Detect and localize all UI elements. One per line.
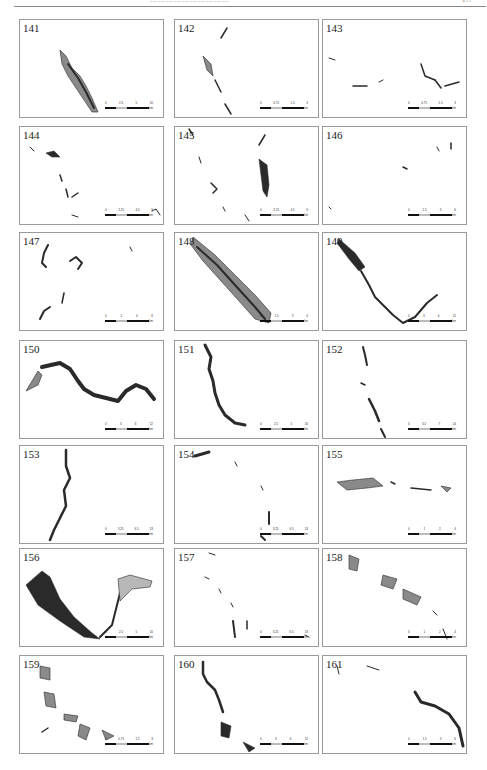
panel-number: 142	[178, 23, 195, 34]
scale-unit: km	[304, 635, 308, 639]
panel-number: 154	[178, 449, 195, 460]
panel-number: 153	[23, 449, 40, 460]
scale-bar: 0248km	[105, 314, 153, 324]
map-panel-152: 15203.5714km	[322, 340, 467, 439]
scale-tick-label: 2	[439, 527, 441, 532]
scale-bar: 02.254.59km	[105, 208, 153, 218]
scale-tick-label: 0	[260, 314, 262, 319]
scale-tick-label: 3	[120, 422, 122, 427]
panel-number: 152	[326, 344, 343, 355]
scale-tick-label: 6	[438, 314, 440, 319]
scale-tick-label: 4.5	[291, 208, 295, 213]
scale-tick-label: 1.5	[423, 208, 427, 213]
scale-tick-label: 4	[136, 314, 138, 319]
scale-tick-label: 0	[105, 527, 107, 532]
map-panel-146: 14601.536km	[322, 126, 467, 225]
scale-tick-label: 0	[260, 422, 262, 427]
scale-tick-label: 7	[439, 422, 441, 427]
panel-number: 146	[326, 130, 343, 141]
scale-bar: 0124km	[408, 630, 456, 640]
map-panel-154: 15403.256.513km	[174, 445, 319, 544]
scale-unit: km	[304, 213, 308, 217]
scale-bar: 03.5714km	[408, 422, 456, 432]
scale-unit: km	[452, 319, 456, 323]
panel-number: 149	[326, 236, 343, 247]
map-panel-158: 1580124km	[322, 548, 467, 647]
scale-tick-label: 1.5	[439, 101, 443, 106]
scale-bar: 02.5510km	[260, 422, 308, 432]
map-panel-147: 1470248km	[19, 232, 164, 331]
map-panel-160: 16003612km	[174, 655, 319, 754]
map-panel-143: 14300.751.53km	[322, 19, 467, 118]
scale-tick-label: 2.25	[118, 208, 124, 213]
panel-number: 141	[23, 23, 40, 34]
scale-tick-label: 0	[105, 208, 107, 213]
map-panel-156: 15602.5510km	[19, 548, 164, 647]
scale-tick-label: 6.5	[134, 527, 138, 532]
scale-tick-label: 0	[408, 737, 410, 742]
panel-number: 145	[178, 130, 195, 141]
scale-tick-label: 0	[260, 101, 262, 106]
panel-number: 143	[326, 23, 343, 34]
scale-bar: 02.5510km	[105, 630, 153, 640]
scale-bar: 02.5510km	[105, 101, 153, 111]
map-panel-149: 14903612km	[322, 232, 467, 331]
running-header: …………………………	[150, 0, 230, 4]
scale-unit: km	[452, 635, 456, 639]
map-panel-145: 14502.254.59km	[174, 126, 319, 225]
scale-tick-label: 4.5	[136, 208, 140, 213]
scale-tick-label: 3.25	[273, 527, 279, 532]
scale-bar: 01.536km	[260, 314, 308, 324]
scale-tick-label: 0.75	[421, 101, 427, 106]
scale-bar: 00.751.53km	[408, 101, 456, 111]
scale-unit: km	[149, 106, 153, 110]
scale-tick-label: 0	[105, 737, 107, 742]
panel-number: 158	[326, 552, 343, 563]
scale-bar: 03.256.513km	[260, 630, 308, 640]
panel-number: 159	[23, 659, 40, 670]
scale-bar: 03.256.513km	[105, 527, 153, 537]
scale-tick-label: 2.5	[119, 101, 123, 106]
scale-bar: 03612km	[105, 422, 153, 432]
scale-tick-label: 0	[260, 527, 262, 532]
header-rule	[14, 6, 486, 7]
scale-tick-label: 0	[408, 208, 410, 213]
scale-unit: km	[149, 213, 153, 217]
map-panel-153: 15303.256.513km	[19, 445, 164, 544]
scale-tick-label: 5	[291, 422, 293, 427]
scale-tick-label: 3	[275, 737, 277, 742]
scale-bar: 01.536km	[408, 208, 456, 218]
scale-bar: 00.751.53km	[105, 737, 153, 747]
scale-tick-label: 1	[423, 630, 425, 635]
map-panel-150: 15003612km	[19, 340, 164, 439]
map-panel-159: 15900.751.53km	[19, 655, 164, 754]
scale-tick-label: 3.25	[118, 527, 124, 532]
map-panel-155: 1550124km	[322, 445, 467, 544]
scale-unit: km	[149, 532, 153, 536]
scale-tick-label: 2.5	[274, 422, 278, 427]
scale-tick-label: 1.5	[423, 737, 427, 742]
scale-unit: km	[149, 742, 153, 746]
scale-tick-label: 5	[136, 101, 138, 106]
scale-unit: km	[304, 319, 308, 323]
scale-bar: 0124km	[408, 527, 456, 537]
scale-tick-label: 0	[105, 630, 107, 635]
scale-tick-label: 6	[135, 422, 137, 427]
scale-tick-label: 2.25	[273, 208, 279, 213]
scale-tick-label: 0.75	[118, 737, 124, 742]
scale-unit: km	[304, 532, 308, 536]
scale-tick-label: 2	[120, 314, 122, 319]
panel-number: 155	[326, 449, 343, 460]
scale-tick-label: 0	[105, 314, 107, 319]
scale-bar: 03612km	[408, 314, 456, 324]
scale-tick-label: 1.5	[291, 101, 295, 106]
panel-number: 151	[178, 344, 195, 355]
scale-tick-label: 3	[423, 314, 425, 319]
scale-unit: km	[304, 427, 308, 431]
scale-tick-label: 5	[136, 630, 138, 635]
scale-tick-label: 3	[440, 737, 442, 742]
map-panel-148: 14801.536km	[174, 232, 319, 331]
scale-tick-label: 0	[408, 527, 410, 532]
scale-tick-label: 0	[408, 630, 410, 635]
scale-unit: km	[452, 106, 456, 110]
